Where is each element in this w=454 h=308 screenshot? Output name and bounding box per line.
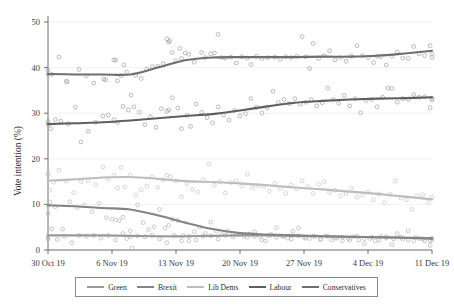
legend-item-lib-dems[interactable]: Lib Dems <box>187 283 238 292</box>
legend-label: Conservatives <box>323 283 366 292</box>
scatter-series-labour <box>46 86 434 144</box>
trend-line-lib-dems <box>48 177 432 199</box>
legend-swatch-icon <box>187 286 204 288</box>
legend-label: Green <box>108 283 127 292</box>
legend-label: Brexit <box>158 283 177 292</box>
legend-label: Labour <box>270 283 292 292</box>
legend-item-brexit[interactable]: Brexit <box>137 283 177 292</box>
scatter-series-conservatives <box>46 32 434 96</box>
legend-swatch-icon <box>137 286 154 288</box>
trend-line-conservatives <box>48 51 432 75</box>
legend-swatch-icon <box>302 286 319 288</box>
trend-line-brexit <box>48 205 432 238</box>
legend-label: Lib Dems <box>208 283 238 292</box>
legend-swatch-icon <box>249 286 266 288</box>
legend-item-labour[interactable]: Labour <box>249 283 292 292</box>
legend-item-green[interactable]: Green <box>87 283 127 292</box>
legend-item-conservatives[interactable]: Conservatives <box>302 283 366 292</box>
trend-line-labour <box>48 97 432 124</box>
legend-swatch-icon <box>87 286 104 288</box>
chart-legend: GreenBrexitLib DemsLabourConservatives <box>75 277 378 297</box>
